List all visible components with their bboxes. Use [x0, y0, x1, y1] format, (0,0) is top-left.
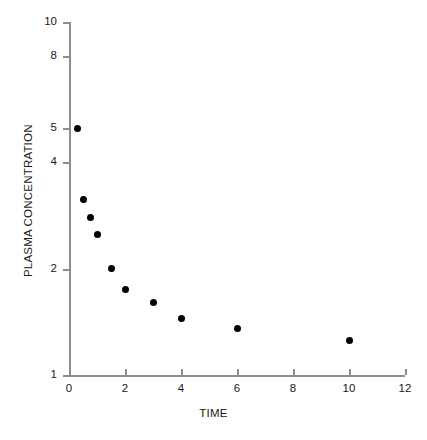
data-point — [80, 196, 87, 203]
y-axis-line — [69, 22, 71, 375]
x-axis-tick — [349, 369, 351, 375]
x-axis-tick — [293, 369, 295, 375]
x-axis-tick-label: 12 — [385, 383, 425, 395]
x-axis-line — [69, 375, 405, 377]
x-axis-tick-label: 2 — [105, 383, 145, 395]
x-axis-tick-label: 10 — [329, 383, 369, 395]
data-point — [74, 125, 81, 132]
y-axis-title: PLASMA CONCENTRATION — [22, 124, 34, 277]
x-axis-tick — [237, 369, 239, 375]
y-axis-tick-label: 10 — [29, 16, 57, 28]
plot-area: 1245810024681012 — [0, 0, 427, 440]
data-point — [346, 337, 353, 344]
x-axis-tick — [405, 369, 407, 375]
x-axis-tick-label: 6 — [217, 383, 257, 395]
data-point — [150, 299, 157, 306]
data-point — [87, 214, 94, 221]
x-axis-tick — [125, 369, 127, 375]
y-axis-tick — [63, 56, 69, 58]
y-axis-tick-label: 8 — [29, 50, 57, 62]
chart-figure: 1245810024681012 PLASMA CONCENTRATION TI… — [0, 0, 427, 440]
x-axis-tick-label: 0 — [49, 383, 89, 395]
data-point — [122, 286, 129, 293]
data-point — [108, 265, 115, 272]
x-axis-tick-label: 8 — [273, 383, 313, 395]
y-axis-tick-label: 1 — [29, 369, 57, 381]
y-axis-tick — [63, 375, 69, 377]
y-axis-tick — [63, 128, 69, 130]
data-point — [178, 315, 185, 322]
y-axis-tick — [63, 269, 69, 271]
x-axis-tick — [181, 369, 183, 375]
x-axis-tick — [69, 369, 71, 375]
x-axis-title: TIME — [0, 407, 427, 419]
y-axis-tick — [63, 22, 69, 24]
data-point — [234, 325, 241, 332]
data-point — [94, 231, 101, 238]
x-axis-tick-label: 4 — [161, 383, 201, 395]
y-axis-tick — [63, 162, 69, 164]
